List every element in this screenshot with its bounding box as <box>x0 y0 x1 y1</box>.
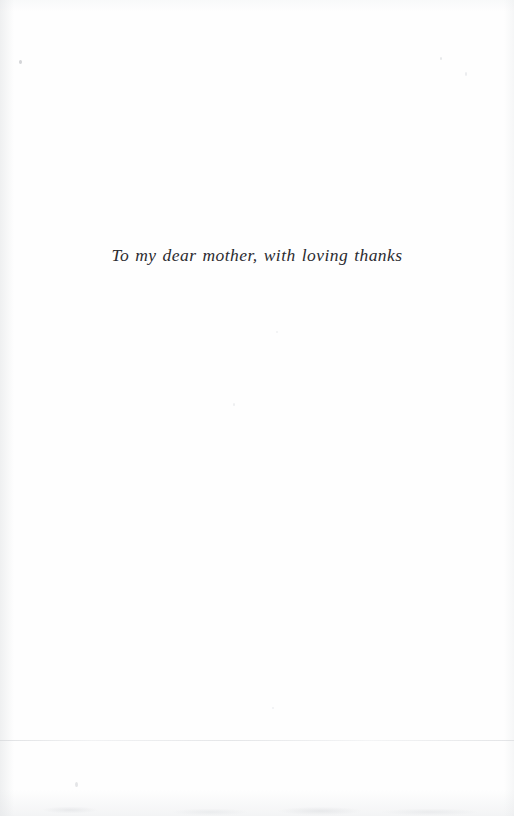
dedication-text: To my dear mother, with loving thanks <box>111 243 402 267</box>
scan-speck-icon <box>233 403 235 406</box>
bottom-edge-mottle <box>0 798 514 816</box>
dedication-block: To my dear mother, with loving thanks <box>0 243 514 267</box>
paper-tone-overlay <box>0 0 514 816</box>
scan-speck-icon <box>440 57 442 60</box>
dedication-page: To my dear mother, with loving thanks <box>0 0 514 816</box>
scan-speck-icon <box>272 707 274 709</box>
scan-speck-icon <box>276 331 278 333</box>
scan-speck-icon <box>19 60 22 64</box>
scan-speck-icon <box>75 782 78 787</box>
scan-speck-icon <box>465 72 467 76</box>
scan-seam-line <box>0 740 514 741</box>
